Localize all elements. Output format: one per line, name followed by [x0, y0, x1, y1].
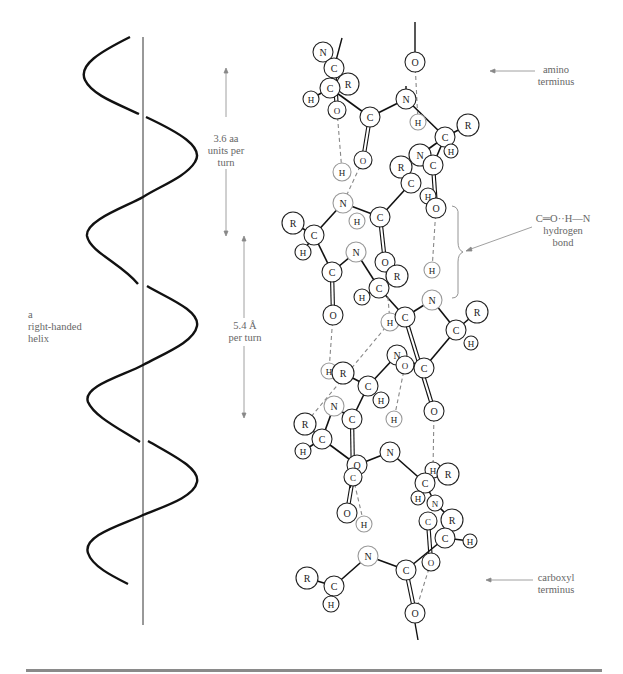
svg-text:C: C	[311, 230, 318, 241]
svg-text:H: H	[468, 339, 475, 349]
atom-o: O	[337, 503, 357, 523]
svg-text:N: N	[330, 401, 337, 412]
svg-text:H: H	[361, 520, 368, 530]
atom-h: H	[295, 443, 311, 459]
atom-h: H	[411, 491, 425, 505]
svg-text:R: R	[474, 307, 481, 318]
atom-n: N	[333, 193, 353, 213]
atom-h: H	[354, 289, 370, 305]
svg-text:O: O	[428, 558, 435, 568]
svg-text:C: C	[402, 312, 409, 323]
svg-text:C: C	[331, 63, 338, 74]
svg-text:R: R	[465, 120, 472, 131]
atom-c: C	[414, 358, 434, 378]
hbond-brace	[452, 206, 463, 298]
svg-text:C: C	[425, 517, 431, 527]
svg-text:H: H	[429, 266, 436, 276]
atom-n: N	[358, 546, 378, 566]
atom-n: N	[422, 290, 442, 310]
svg-text:N: N	[319, 47, 326, 58]
atom-r: R	[466, 301, 488, 323]
svg-text:C: C	[376, 283, 383, 294]
atom-r: R	[296, 567, 318, 589]
atom-c: C	[322, 262, 342, 282]
svg-text:H: H	[448, 147, 455, 157]
svg-text:R: R	[302, 419, 309, 430]
atom-n: N	[346, 242, 366, 262]
atom-c: C	[360, 107, 380, 127]
svg-text:O: O	[430, 406, 437, 417]
atom-h: H	[410, 114, 426, 130]
atom-r: R	[437, 463, 459, 485]
atom-o: O	[328, 101, 346, 119]
atom-c: C	[396, 560, 416, 580]
atom-h: H	[464, 336, 478, 350]
bottom-rule	[26, 669, 602, 672]
atom-c: C	[446, 320, 466, 340]
svg-text:C: C	[430, 160, 437, 171]
svg-text:O: O	[381, 257, 388, 268]
atom-c: C	[324, 576, 344, 596]
svg-text:N: N	[402, 94, 409, 105]
diagram-canvas: NCRCHOCOONHCRHNCRCHOHNCRCHHNCORCHOHNHCCR…	[0, 0, 623, 674]
svg-text:C: C	[442, 132, 449, 143]
svg-text:H: H	[354, 217, 361, 227]
svg-text:H: H	[300, 248, 307, 258]
atom-c: C	[358, 376, 378, 396]
atom-o: O	[426, 198, 446, 218]
svg-text:H: H	[328, 600, 335, 610]
svg-text:C: C	[453, 325, 460, 336]
atom-c: C	[415, 473, 435, 493]
svg-text:C: C	[367, 112, 374, 123]
svg-text:C: C	[422, 478, 429, 489]
svg-text:C: C	[329, 267, 336, 278]
atom-h: H	[295, 244, 311, 260]
atom-h: H	[323, 596, 339, 612]
atom-c: C	[342, 409, 362, 429]
helix-label: a right-handed helix	[28, 309, 82, 345]
atom-c: C	[320, 78, 340, 98]
svg-text:H: H	[359, 293, 366, 303]
svg-text:N: N	[428, 295, 435, 306]
atom-c: C	[401, 173, 421, 193]
pitch-label: 5.4 Å per turn	[222, 320, 268, 344]
atom-r: R	[337, 73, 359, 95]
svg-text:R: R	[340, 368, 347, 379]
atom-n: N	[427, 495, 443, 511]
svg-text:H: H	[339, 168, 346, 178]
svg-text:H: H	[430, 466, 437, 476]
amino-terminus-label: amino terminus	[533, 64, 579, 88]
atom-c: C	[395, 307, 415, 327]
svg-text:O: O	[411, 57, 418, 68]
svg-text:R: R	[304, 573, 311, 584]
svg-text:C: C	[327, 83, 334, 94]
svg-text:C: C	[408, 178, 415, 189]
atom-c: C	[419, 512, 437, 530]
atom-h: H	[386, 411, 402, 427]
atom-o: O	[323, 305, 343, 325]
atom-c: C	[423, 155, 443, 175]
atom-o: O	[354, 151, 372, 169]
svg-text:C: C	[331, 581, 338, 592]
svg-text:H: H	[378, 396, 385, 406]
atom-h: H	[349, 213, 365, 229]
svg-text:C: C	[349, 414, 356, 425]
svg-text:R: R	[290, 218, 297, 229]
svg-text:N: N	[386, 447, 393, 458]
residues-per-turn-label: 3.6 aa units per turn	[203, 133, 249, 169]
svg-text:H: H	[391, 415, 398, 425]
molecular-atoms: NCRCHOCOONHCRHNCRCHOHNCRCHHNCORCHOHNHCCR…	[282, 42, 488, 623]
svg-text:N: N	[339, 198, 346, 209]
svg-text:O: O	[334, 106, 341, 116]
svg-text:C: C	[403, 565, 410, 576]
svg-text:R: R	[398, 162, 405, 173]
hbond-pointer	[468, 227, 532, 250]
atom-c: C	[304, 225, 324, 245]
atom-n: N	[396, 89, 416, 109]
atom-c: C	[312, 429, 332, 449]
svg-text:H: H	[387, 318, 394, 328]
atom-r: R	[457, 114, 479, 136]
svg-text:C: C	[377, 212, 384, 223]
atom-h: H	[373, 392, 389, 408]
svg-text:C: C	[319, 434, 326, 445]
